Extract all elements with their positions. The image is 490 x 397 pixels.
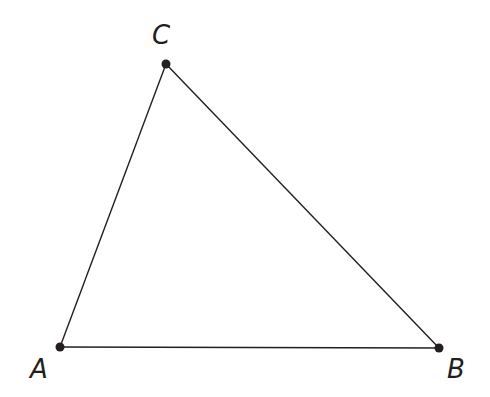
triangle-diagram: A B C: [0, 0, 490, 397]
edge-ca: [60, 64, 166, 347]
vertex-a-label: A: [28, 354, 48, 384]
edge-ab: [60, 347, 439, 348]
vertex-b-label: B: [447, 354, 465, 384]
triangle-figure: A B C: [0, 0, 490, 397]
edge-bc: [166, 64, 439, 348]
vertex-b-point: [435, 344, 444, 353]
vertex-c-point: [162, 60, 171, 69]
vertex-a-point: [56, 343, 65, 352]
vertex-c-label: C: [152, 20, 171, 50]
